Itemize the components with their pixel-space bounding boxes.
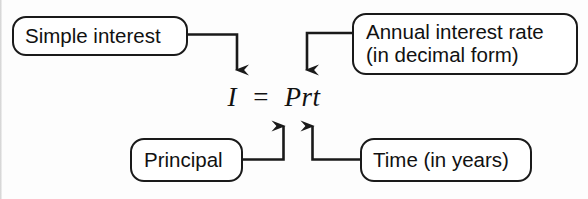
- node-time: Time (in years): [360, 138, 532, 182]
- node-annual-rate-label: Annual interest rate (in decimal form): [366, 21, 544, 67]
- simple-interest-diagram: Simple interest Annual interest rate (in…: [0, 0, 588, 199]
- scan-edge-artifact: [0, 0, 2, 199]
- node-simple-interest-label: Simple interest: [25, 25, 161, 48]
- connector-simple-interest-to-I: [188, 35, 237, 71]
- connector-time-to-t: [313, 126, 361, 160]
- formula-simple-interest: I = Prt: [222, 80, 326, 114]
- connector-principal-to-P: [243, 126, 284, 160]
- node-simple-interest: Simple interest: [12, 16, 188, 56]
- node-time-label: Time (in years): [373, 149, 509, 172]
- node-annual-rate: Annual interest rate (in decimal form): [352, 13, 578, 75]
- formula-text: I = Prt: [227, 82, 320, 113]
- node-principal-label: Principal: [144, 149, 223, 172]
- node-principal: Principal: [130, 138, 243, 182]
- connector-annual-rate-to-r: [307, 33, 352, 70]
